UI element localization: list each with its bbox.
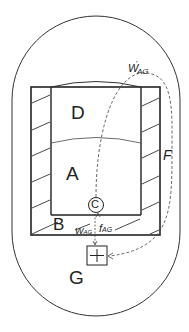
label-w-prime-ag: W'AG bbox=[128, 59, 151, 75]
label-c: C bbox=[91, 199, 99, 210]
chamber-top-surface bbox=[51, 82, 141, 88]
label-b: B bbox=[53, 216, 64, 233]
label-g: G bbox=[69, 268, 84, 287]
label-a: A bbox=[66, 164, 79, 183]
d-a-interface bbox=[51, 138, 141, 144]
label-w-ag: WAG bbox=[75, 221, 92, 237]
label-d: D bbox=[71, 103, 85, 122]
w-prime-ag-sub: AG bbox=[137, 67, 149, 76]
thermal-system-diagram bbox=[0, 0, 189, 332]
f-ag-sub: AG bbox=[102, 226, 112, 233]
label-f-ag: fAG bbox=[99, 219, 112, 235]
left-wall-hatching bbox=[32, 95, 58, 234]
label-f: F bbox=[163, 148, 172, 162]
w-ag-sub: AG bbox=[84, 229, 93, 235]
outer-enclosure bbox=[12, 16, 180, 316]
right-wall-hatching bbox=[142, 98, 159, 234]
w-ag-main: W bbox=[75, 226, 84, 236]
